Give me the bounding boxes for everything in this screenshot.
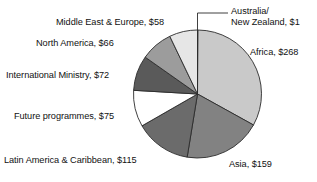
slice-label-africa: Africa, $268 — [250, 47, 298, 58]
slice-label-latin-america-caribbean: Latin America & Caribbean, $115 — [4, 155, 137, 166]
slice-label-middle-east-europe: Middle East & Europe, $58 — [56, 17, 164, 28]
slice-label-australia-line2: New Zealand, $1 — [231, 17, 300, 27]
slice-label-international-ministry: International Ministry, $72 — [6, 70, 109, 81]
slice-label-australia-new-zealand: Australia/ New Zealand, $1 — [231, 6, 315, 28]
pie-chart-figure: Australia/ New Zealand, $1 Africa, $268 … — [0, 0, 317, 182]
slice-label-australia-line1: Australia/ — [231, 6, 269, 16]
slice-label-asia: Asia, $159 — [229, 159, 272, 170]
slice-label-future-programmes: Future programmes, $75 — [14, 111, 114, 122]
slice-label-north-america: North America, $66 — [36, 38, 114, 49]
